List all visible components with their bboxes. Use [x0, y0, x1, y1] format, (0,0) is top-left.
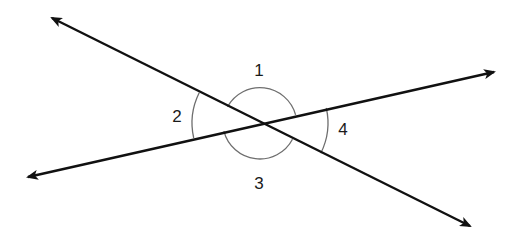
angle-4-label: 4	[338, 121, 347, 138]
diagram-svg	[0, 0, 522, 244]
angle-1-label: 1	[254, 62, 263, 79]
line-a	[52, 18, 470, 226]
angle-3-label: 3	[254, 175, 263, 192]
intersecting-lines-diagram: 1 2 3 4	[0, 0, 522, 244]
angle-3-arc	[224, 131, 293, 159]
angle-2-label: 2	[172, 108, 181, 125]
angle-4-arc	[321, 108, 328, 153]
angle-2-arc	[192, 93, 199, 138]
